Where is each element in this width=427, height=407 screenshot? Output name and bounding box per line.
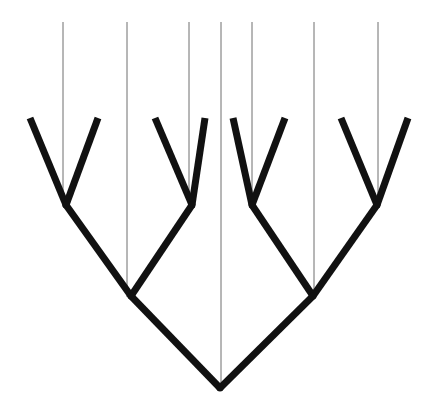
node-right-clade [310,293,317,300]
node-left-clade [128,293,135,300]
node-pair-4 [374,202,381,209]
node-pair-2 [189,202,196,209]
cladogram-figure [0,0,427,407]
node-pair-1 [63,202,70,209]
node-root [217,385,224,392]
node-pair-3 [249,202,256,209]
cladogram-canvas [0,0,427,407]
